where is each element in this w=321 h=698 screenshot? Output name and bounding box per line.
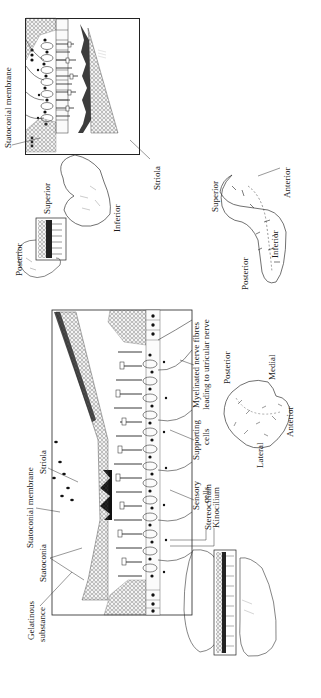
label-posterior-inset: Posterior <box>14 244 24 277</box>
label-supporting-cells-line2: cells <box>201 429 211 446</box>
label-lateral-utricle-map: Lateral <box>255 443 265 468</box>
label-superior-map: Superior <box>210 181 220 212</box>
utricle-orientation-map-drawing <box>224 380 290 448</box>
saccule-orientation-map-drawing <box>220 168 286 283</box>
label-striola-lower: Striola <box>38 450 48 474</box>
label-statoconial-membrane-upper: Statoconial membrane <box>3 67 13 148</box>
label-gelatinous-substance-line2: substance <box>37 607 47 642</box>
label-sensory-cells-line1: Sensory <box>191 481 201 510</box>
label-superior-inset: Superior <box>42 183 52 214</box>
saccule-inset-box-drawing <box>18 218 66 278</box>
label-myelinated-nerve-line1: Myelinated nerve fibres <box>191 322 201 408</box>
label-striola-upper: Striola <box>152 166 162 190</box>
label-posterior-utricle-map: Posterior <box>222 352 232 385</box>
label-inferior-inset: Inferior <box>112 205 122 232</box>
label-anterior-map: Anterior <box>282 168 292 199</box>
label-myelinated-nerve-line2: leading to utricular nerve <box>201 319 211 410</box>
label-gelatinous-substance-line1: Gelatinous <box>26 601 36 640</box>
label-kinocilium: Kinocilium <box>211 487 221 528</box>
label-inferior-map: Inferior <box>270 231 280 258</box>
label-posterior-map: Posterior <box>240 258 250 291</box>
saccule-outline-drawing <box>61 155 111 226</box>
label-anterior-utricle-map: Anterior <box>285 407 295 438</box>
utricle-inset-drawing <box>184 550 276 656</box>
label-statoconia: Statoconia <box>38 544 48 582</box>
label-medial-utricle-map: Medial <box>267 355 277 381</box>
saccule-epithelium-drawing <box>12 18 150 159</box>
diagram-artwork <box>0 0 321 698</box>
label-statoconial-membrane-lower: Statoconial membrane <box>25 467 35 548</box>
label-supporting-cells-line1: Supporting <box>191 420 201 460</box>
